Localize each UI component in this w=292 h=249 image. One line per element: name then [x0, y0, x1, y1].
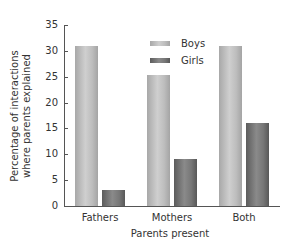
y-tick: [64, 51, 68, 52]
y-tick: [64, 77, 68, 78]
x-tick-label: Fathers: [65, 212, 135, 223]
y-tick: [64, 128, 68, 129]
legend-swatch-boys: [150, 41, 170, 46]
x-tick-label: Both: [209, 212, 279, 223]
legend-item-girls: Girls: [150, 54, 204, 66]
y-tick-label: 25: [36, 71, 58, 83]
legend-item-boys: Boys: [150, 37, 205, 49]
y-axis-title-line-2: where parents explained: [21, 26, 33, 206]
y-tick-label: 0: [36, 200, 58, 212]
y-axis-title-line-1: Percentage of interactions: [9, 26, 21, 206]
y-tick: [64, 25, 68, 26]
y-tick-label: 20: [36, 97, 58, 109]
x-axis: [64, 206, 280, 207]
bar-both-boys: [219, 46, 242, 206]
bar-mothers-girls: [174, 159, 197, 206]
y-tick-label: 10: [36, 148, 58, 160]
y-tick-label: 35: [36, 19, 58, 31]
y-tick-label: 5: [36, 174, 58, 186]
y-tick: [64, 206, 68, 207]
y-axis-title: Percentage of interactions where parents…: [9, 26, 33, 206]
bar-mothers-boys: [147, 75, 170, 206]
legend-label-girls: Girls: [181, 55, 204, 66]
x-tick-label: Mothers: [137, 212, 207, 223]
y-tick: [64, 180, 68, 181]
bar-chart: Percentage of interactions where parents…: [0, 0, 292, 249]
legend-swatch-girls: [150, 58, 170, 63]
y-tick-label: 15: [36, 122, 58, 134]
bar-both-girls: [246, 123, 269, 206]
y-tick: [64, 154, 68, 155]
legend-label-boys: Boys: [181, 38, 205, 49]
bar-fathers-girls: [102, 190, 125, 206]
y-tick-label: 30: [36, 45, 58, 57]
x-axis-title: Parents present: [100, 228, 240, 239]
bar-fathers-boys: [75, 46, 98, 206]
y-tick: [64, 103, 68, 104]
